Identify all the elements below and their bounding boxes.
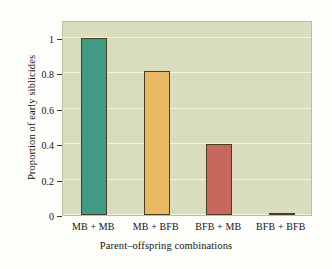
- y-tick-label: 0.4: [26, 140, 54, 151]
- x-tick-label-2: MB + BFB: [133, 221, 179, 232]
- x-tick-label-1: MB + MB: [72, 221, 114, 232]
- x-axis-title: Parent–offspring combinations: [0, 240, 332, 251]
- bar-1: [81, 38, 107, 215]
- y-tick-mark: [57, 74, 62, 75]
- bar-3: [206, 144, 232, 215]
- y-tick-label: 0.8: [26, 69, 54, 80]
- x-tick-label-3: BFB + MB: [195, 221, 241, 232]
- y-tick-label: 0: [26, 211, 54, 222]
- y-tick-mark: [57, 145, 62, 146]
- x-tick-label-4: BFB + BFB: [256, 221, 305, 232]
- y-tick-mark: [57, 181, 62, 182]
- y-tick-label: 1: [26, 33, 54, 44]
- y-tick-mark: [57, 216, 62, 217]
- bar-4: [269, 213, 295, 216]
- y-tick-mark: [57, 110, 62, 111]
- chart-figure: Proportion of early siblicides 00.20.40.…: [0, 0, 332, 269]
- plot-area: [62, 21, 312, 216]
- plot-inner: [63, 22, 311, 215]
- y-tick-label: 0.2: [26, 175, 54, 186]
- bar-2: [144, 71, 170, 215]
- y-tick-mark: [57, 39, 62, 40]
- y-tick-label: 0.6: [26, 104, 54, 115]
